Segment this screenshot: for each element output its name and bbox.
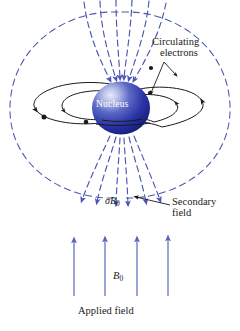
circulating-electrons-label-line2: electrons [152, 47, 199, 58]
secondary-field-label: Secondary field [172, 196, 216, 219]
field-line-lower-5 [129, 137, 146, 202]
leader-to-inner-orbit [151, 62, 164, 93]
sigma-b0-label: σB0 [105, 196, 120, 208]
electron-marker-outer-left [42, 115, 47, 120]
field-line-upper-1 [84, 2, 110, 80]
secondary-field-label-line2: field [172, 207, 216, 218]
field-line-lower-3 [116, 138, 120, 204]
nucleus-label: Nucleus [96, 99, 129, 109]
secondary-field-label-line1: Secondary [172, 196, 216, 207]
electron-marker-pointer-right [149, 66, 153, 70]
secondary-field-lines-lower [82, 136, 160, 204]
secondary-field-leader [136, 197, 170, 205]
circulating-electrons-label-line1: Circulating [152, 36, 199, 47]
sigma-b0-symbol: σB [105, 195, 116, 206]
electron-marker-inner-left [84, 120, 89, 125]
figure-canvas: Circulating electrons Nucleus σB0 Second… [0, 0, 240, 331]
circulating-electrons-leaders [151, 62, 176, 93]
b0-label: B0 [113, 270, 123, 283]
sigma-b0-subscript: 0 [116, 199, 120, 208]
applied-field-label: Applied field [78, 305, 134, 316]
field-line-lower-2 [97, 137, 116, 202]
leader-to-outer-orbit [164, 62, 176, 75]
applied-field-arrows [74, 238, 168, 296]
b0-subscript: 0 [119, 274, 123, 283]
field-line-lower-4 [124, 138, 128, 204]
circulating-electrons-label: Circulating electrons [152, 36, 199, 59]
